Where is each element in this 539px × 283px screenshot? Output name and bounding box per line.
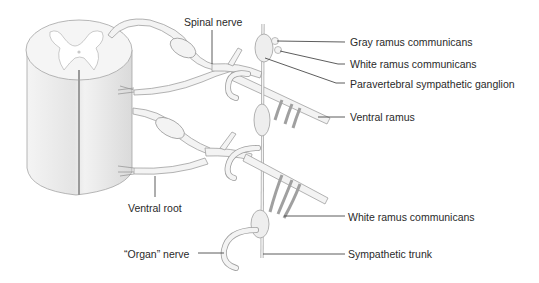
ventral-root-lower	[134, 158, 208, 174]
label-spinal-nerve: Spinal nerve	[184, 16, 242, 28]
lower-nerve	[118, 108, 252, 176]
spinal-cord	[26, 20, 132, 195]
label-ventral-ramus: Ventral ramus	[350, 111, 415, 123]
ventral-ramus-lower	[243, 154, 328, 218]
dorsal-ramus-lower	[220, 132, 236, 150]
label-sympathetic-trunk: Sympathetic trunk	[348, 248, 432, 260]
label-white-ramus-communicans-bottom: White ramus communicans	[348, 211, 475, 223]
ganglion-upper	[255, 34, 273, 62]
label-ventral-root: Ventral root	[128, 202, 182, 214]
dorsal-ramus-upper	[228, 48, 242, 66]
ganglion-middle	[254, 104, 270, 136]
central-canal	[77, 50, 80, 53]
sympathetic-trunk	[251, 24, 282, 258]
ganglion-lower	[251, 210, 269, 238]
label-organ-nerve: “Organ” nerve	[124, 248, 189, 260]
label-gray-ramus-communicans: Gray ramus communicans	[350, 36, 473, 48]
leader-gray-ramus	[277, 41, 345, 42]
leader-white-ramus-top	[280, 51, 345, 64]
leader-paravertebral	[265, 58, 345, 83]
white-ramus-knob	[275, 47, 282, 54]
label-white-ramus-communicans-top: White ramus communicans	[350, 58, 477, 70]
label-paravertebral-ganglion: Paravertebral sympathetic ganglion	[350, 78, 515, 90]
ventral-ramus-upper	[229, 72, 330, 128]
